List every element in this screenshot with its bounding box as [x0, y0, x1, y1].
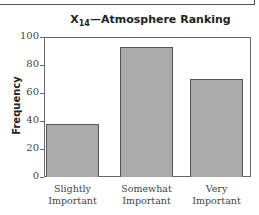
x-tick-label: SomewhatImportant [112, 183, 182, 207]
bar [190, 79, 243, 177]
bar [120, 47, 173, 177]
y-tick-label: 60 [10, 87, 39, 97]
top-border-rule [0, 4, 255, 5]
title-subscript: 14 [79, 19, 90, 28]
y-tick-label: 80 [10, 59, 39, 69]
x-tick-label: SlightlyImportant [38, 183, 108, 207]
chart-title: X14—Atmosphere Ranking [0, 13, 259, 28]
bar [46, 124, 99, 177]
top-border-rule-end [254, 0, 255, 5]
y-tick-label: 100 [10, 31, 39, 41]
x-tick-label-line: Important [112, 195, 182, 207]
x-tick-label-line: Important [38, 195, 108, 207]
x-tick-label-line: Important [182, 195, 252, 207]
title-text: —Atmosphere Ranking [90, 13, 231, 26]
x-tick-label-line: Very [182, 183, 252, 195]
y-tick-label: 20 [10, 143, 39, 153]
y-tick [40, 177, 44, 178]
x-tick-label-line: Slightly [38, 183, 108, 195]
y-tick-label: 40 [10, 115, 39, 125]
title-variable: X [70, 13, 78, 26]
x-tick-label: VeryImportant [182, 183, 252, 207]
y-axis-label: Frequency [11, 76, 22, 136]
y-tick-label: 0 [10, 171, 39, 181]
x-tick-label-line: Somewhat [112, 183, 182, 195]
